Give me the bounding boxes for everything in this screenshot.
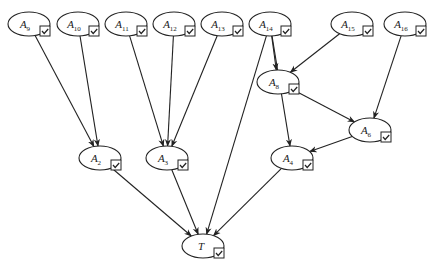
node-a2[interactable]: A2 bbox=[79, 146, 121, 170]
edge-a8-to-a6 bbox=[294, 90, 355, 122]
node-label: T bbox=[198, 240, 205, 252]
edge-a14-to-t bbox=[207, 36, 267, 234]
edges-layer bbox=[35, 34, 401, 236]
node-t[interactable]: T bbox=[182, 234, 224, 258]
nodes-layer: A9A10A11A12A13A14A15A16A8A6A2A3A4T bbox=[8, 12, 426, 258]
checkbox[interactable] bbox=[185, 26, 195, 36]
edge-a11-to-a3 bbox=[130, 36, 164, 146]
checkbox[interactable] bbox=[381, 132, 391, 142]
node-a13[interactable]: A13 bbox=[201, 12, 243, 36]
checkbox[interactable] bbox=[137, 26, 147, 36]
node-a10[interactable]: A10 bbox=[57, 12, 99, 36]
checkbox[interactable] bbox=[281, 26, 291, 36]
edge-a16-to-a6 bbox=[374, 36, 401, 118]
node-a6[interactable]: A6 bbox=[349, 118, 391, 142]
checkbox[interactable] bbox=[40, 26, 50, 36]
node-a9[interactable]: A9 bbox=[8, 12, 50, 36]
node-a8[interactable]: A8 bbox=[257, 70, 299, 94]
edge-a10-to-a2 bbox=[80, 36, 98, 146]
checkbox[interactable] bbox=[363, 26, 373, 36]
node-a12[interactable]: A12 bbox=[153, 12, 195, 36]
checkbox[interactable] bbox=[289, 84, 299, 94]
node-a11[interactable]: A11 bbox=[105, 12, 147, 36]
checkbox[interactable] bbox=[303, 160, 313, 170]
checkbox[interactable] bbox=[89, 26, 99, 36]
checkbox[interactable] bbox=[233, 26, 243, 36]
node-a4[interactable]: A4 bbox=[271, 146, 313, 170]
dependency-graph: A9A10A11A12A13A14A15A16A8A6A2A3A4T bbox=[0, 0, 429, 273]
edge-a6-to-a4 bbox=[310, 136, 352, 151]
edge-a15-to-a8 bbox=[290, 34, 339, 73]
node-a16[interactable]: A16 bbox=[384, 12, 426, 36]
checkbox[interactable] bbox=[214, 248, 224, 258]
node-a14[interactable]: A14 bbox=[249, 12, 291, 36]
edge-a9-to-a2 bbox=[35, 36, 94, 147]
checkbox[interactable] bbox=[178, 160, 188, 170]
checkbox[interactable] bbox=[111, 160, 121, 170]
edge-a2-to-t bbox=[112, 168, 192, 236]
node-a15[interactable]: A15 bbox=[331, 12, 373, 36]
edge-a12-to-a3 bbox=[168, 36, 174, 146]
edge-a3-to-t bbox=[172, 170, 198, 235]
edge-a13-to-a3 bbox=[172, 36, 217, 147]
node-a3[interactable]: A3 bbox=[146, 146, 188, 170]
checkbox[interactable] bbox=[416, 26, 426, 36]
